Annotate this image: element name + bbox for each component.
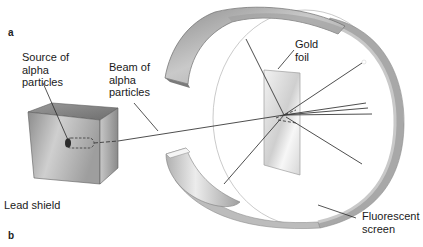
label-lead-shield: Lead shield [4, 199, 60, 212]
lower-cylinder-wall [166, 148, 240, 207]
panel-label-a: a [8, 27, 14, 38]
panel-label-b: b [8, 230, 14, 241]
diagram-canvas: a b Source of alpha particles Beam of al… [0, 0, 423, 247]
label-fluorescent-screen: Fluorescent screen [362, 210, 419, 235]
label-beam-of-alpha-particles: Beam of alpha particles [109, 61, 150, 99]
label-source-of-alpha-particles: Source of alpha particles [22, 51, 69, 89]
label-gold-foil: Gold foil [295, 38, 318, 63]
lead-shield-box [28, 103, 118, 184]
apparatus-illustration [0, 0, 423, 247]
